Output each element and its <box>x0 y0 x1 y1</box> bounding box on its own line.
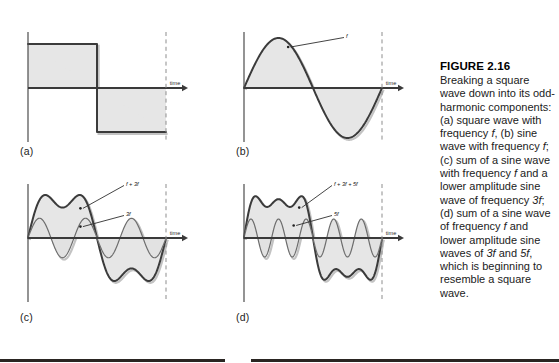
annotation-anchor-2 <box>292 224 295 227</box>
figure-caption-body: Breaking a square wave down into its odd… <box>440 74 556 300</box>
time-axis-label: time <box>170 80 181 86</box>
annotation-label-2: 5f <box>334 211 340 217</box>
panel-d-plot: timef + 3f + 5f5f <box>222 170 430 310</box>
annotation-anchor-1 <box>79 207 82 210</box>
annotation-anchor-2 <box>79 225 82 228</box>
annotation-label-2: 3f <box>126 211 132 217</box>
panel-b-label: (b) <box>236 145 249 157</box>
page-rule-right <box>251 359 559 362</box>
page-rule-left <box>0 359 225 362</box>
figure-2-16: time (a) timef (b) timef + 3f3f (c) time… <box>0 0 559 363</box>
panel-c-sum-f-3f: timef + 3f3f <box>6 170 214 310</box>
annotation-label-1: f + 3f + 5f <box>334 181 359 187</box>
panel-a-label: (a) <box>20 145 33 157</box>
time-axis-arrow <box>398 235 404 241</box>
time-axis-arrow <box>182 235 188 241</box>
figure-caption: FIGURE 2.16 Breaking a square wave down … <box>440 60 556 300</box>
panel-b-sine-wave: timef <box>222 14 430 142</box>
figure-caption-title: FIGURE 2.16 <box>440 60 556 73</box>
annotation-leader-1 <box>83 186 124 209</box>
panel-b-plot: timef <box>222 14 430 142</box>
annotation-label-1: f + 3f <box>126 181 140 187</box>
annotation-label-1: f <box>346 33 349 39</box>
panel-c-label: (c) <box>20 311 33 323</box>
annotation-anchor-1 <box>287 46 290 49</box>
time-axis-arrow <box>398 85 404 91</box>
panel-d-label: (d) <box>236 311 249 323</box>
panel-c-plot: timef + 3f3f <box>6 170 214 310</box>
time-axis-label: time <box>386 80 397 86</box>
panel-d-sum-f-3f-5f: timef + 3f + 5f5f <box>222 170 430 310</box>
annotation-leader-1 <box>302 186 332 208</box>
time-axis-label: time <box>170 230 181 236</box>
annotation-leader-1 <box>291 38 344 48</box>
time-axis-label: time <box>386 230 397 236</box>
time-axis-arrow <box>182 85 188 91</box>
panel-a-plot: time <box>6 14 214 142</box>
annotation-anchor-1 <box>298 206 301 209</box>
panel-a-square-wave: time <box>6 14 214 142</box>
